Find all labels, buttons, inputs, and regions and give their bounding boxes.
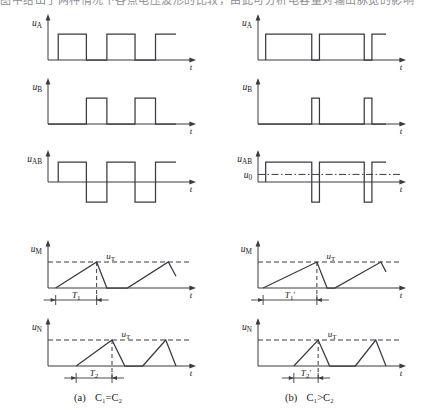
panel-b-um-axes: t <box>256 240 406 300</box>
svg-text:t: t <box>400 368 403 378</box>
panel-a-un-label: uN <box>32 322 43 334</box>
caption-b: (b) C₁>C₂ <box>285 392 334 403</box>
panel-a-um-axes: t <box>46 240 196 300</box>
panel-a-um-interval: T1 <box>44 290 109 306</box>
panel-a-un-interval: T2 <box>64 368 124 384</box>
panel-b-uab-label: uAB <box>237 154 252 166</box>
caption-a-marker: (a) <box>74 392 86 403</box>
panel-a-un-axes: t <box>46 318 196 378</box>
caption-b-text: C₁>C₂ <box>307 392 334 403</box>
svg-text:t: t <box>190 290 193 300</box>
panel-a-ua-label: uA <box>32 18 43 30</box>
panel-b-un-interval: T2′ <box>282 368 330 384</box>
panel-b-un-threshold-label: uT <box>328 329 338 341</box>
svg-text:t: t <box>190 126 193 136</box>
svg-text:uN: uN <box>32 322 43 334</box>
svg-text:uM: uM <box>31 244 43 256</box>
svg-text:u0: u0 <box>244 170 253 182</box>
svg-text:uN: uN <box>242 322 253 334</box>
panel-b-ua-trace <box>266 34 386 60</box>
panel-a-ua-trace <box>58 34 176 60</box>
panel-a-uab-axes: t <box>46 150 196 194</box>
caption-a: (a) C₁=C₂ <box>74 392 122 403</box>
svg-text:t: t <box>190 184 193 194</box>
panel-a-um-trace <box>56 262 176 288</box>
panel-b-um-label: uM <box>241 244 253 256</box>
panel-a-ub-label: uB <box>32 82 42 94</box>
panel-b-uab-reference-label: u0 <box>244 170 253 182</box>
panel-b-ub-label: uB <box>242 82 252 94</box>
panel-b-un-axes: t <box>256 318 406 378</box>
panel-b-ub-trace <box>258 98 386 124</box>
panel-a-um-label: uM <box>31 244 43 256</box>
panel-b-um-trace <box>263 262 386 288</box>
svg-text:t: t <box>400 126 403 136</box>
caption-b-marker: (b) <box>285 392 297 403</box>
svg-text:uB: uB <box>242 82 252 94</box>
panel-b-un-trace <box>294 340 386 366</box>
svg-text:t: t <box>400 62 403 72</box>
panel-a-ub-axes: t <box>46 78 196 136</box>
panel-a-uab-label: uAB <box>27 154 42 166</box>
svg-text:uB: uB <box>32 82 42 94</box>
panel-b-ua-label: uA <box>242 18 253 30</box>
svg-text:uA: uA <box>242 18 253 30</box>
svg-text:uT: uT <box>326 251 336 263</box>
svg-text:t: t <box>190 62 193 72</box>
panel-b-um-threshold-label: uT <box>326 251 336 263</box>
svg-text:uA: uA <box>32 18 43 30</box>
svg-text:uAB: uAB <box>237 154 252 166</box>
panel-b-ua-axes: t <box>256 14 406 72</box>
panel-a-ub-trace <box>48 98 176 124</box>
svg-text:t: t <box>400 290 403 300</box>
caption-a-text: C₁=C₂ <box>95 392 122 403</box>
panel-a-un-trace <box>76 340 176 366</box>
panel-b-un-label: uN <box>242 322 253 334</box>
panel-a-ua-axes: t <box>46 14 196 72</box>
waveform-figure: tuAtuBtuABtuMuTT1tuNuTT2tuAtuBtuABu0tuMu… <box>0 0 425 414</box>
svg-text:t: t <box>400 184 403 194</box>
svg-text:uAB: uAB <box>27 154 42 166</box>
panel-b-ub-axes: t <box>256 78 406 136</box>
panel-b-uab-axes: t <box>256 150 406 194</box>
svg-text:uT: uT <box>328 329 338 341</box>
svg-text:t: t <box>190 368 193 378</box>
svg-text:uM: uM <box>241 244 253 256</box>
